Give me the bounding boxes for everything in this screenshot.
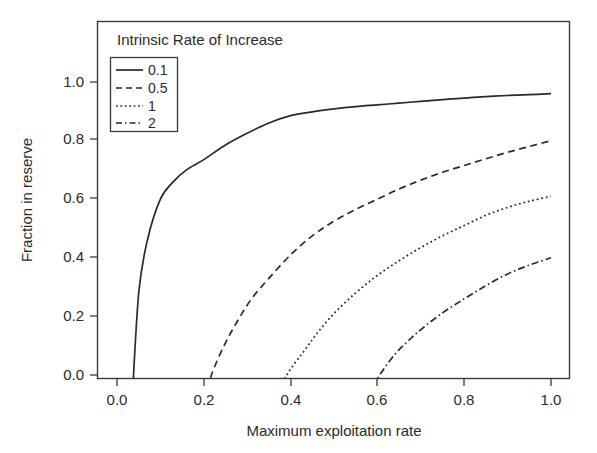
chart-background	[0, 0, 597, 453]
x-tick-label: 1.0	[541, 391, 562, 408]
x-axis-title: Maximum exploitation rate	[246, 422, 421, 439]
x-tick-label: 0.2	[194, 391, 215, 408]
y-tick-label: 1.0	[63, 73, 84, 90]
x-tick-label: 0.6	[367, 391, 388, 408]
x-tick-label: 0.0	[107, 391, 128, 408]
legend-title: Intrinsic Rate of Increase	[117, 31, 283, 48]
legend-label: 2	[148, 115, 156, 131]
y-tick-label: 0.2	[63, 307, 84, 324]
x-tick-label: 0.8	[454, 391, 475, 408]
legend-label: 0.5	[148, 80, 168, 96]
y-tick-label: 0.6	[63, 189, 84, 206]
y-tick-label: 0.8	[63, 130, 84, 147]
legend-label: 0.1	[148, 62, 168, 78]
legend-label: 1	[148, 98, 156, 114]
x-tick-label: 0.4	[281, 391, 302, 408]
chart-figure: 0.0 0.2 0.4 0.6 0.8 1.0 0.0 0.2 0.4 0.6 …	[0, 0, 597, 453]
y-tick-label: 0.0	[63, 366, 84, 383]
y-tick-label: 0.4	[63, 248, 84, 265]
y-axis-title: Fraction in reserve	[18, 138, 35, 262]
